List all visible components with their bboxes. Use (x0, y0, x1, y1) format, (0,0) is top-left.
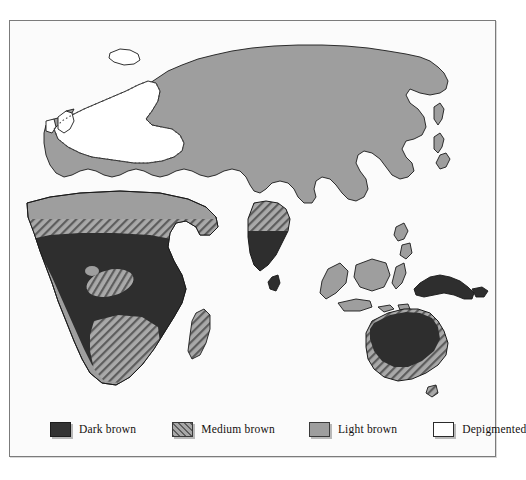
dark-brown-swatch (50, 422, 71, 437)
legend-label-dark-brown: Dark brown (79, 423, 136, 435)
depigmented-swatch (433, 422, 454, 437)
legend-item-medium-brown: Medium brown (172, 422, 275, 437)
legend-item-depigmented: Depigmented (433, 422, 526, 437)
figure-frame: Dark brown Medium brown Light brown Depi… (9, 20, 496, 457)
legend-item-dark-brown: Dark brown (50, 422, 136, 437)
region-borneo (354, 259, 390, 291)
map-legend: Dark brown Medium brown Light brown Depi… (20, 409, 485, 449)
light-brown-swatch (309, 422, 330, 437)
legend-label-light-brown: Light brown (338, 423, 397, 435)
medium-brown-swatch (172, 422, 193, 437)
legend-item-light-brown: Light brown (309, 422, 397, 437)
legend-label-depigmented: Depigmented (462, 423, 526, 435)
world-map-svg (10, 21, 495, 456)
map-canvas (10, 21, 495, 456)
legend-label-medium-brown: Medium brown (201, 423, 275, 435)
region-congo-inner-light (85, 266, 99, 276)
